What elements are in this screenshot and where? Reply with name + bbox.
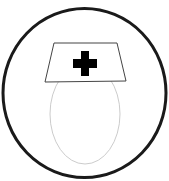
background — [0, 0, 169, 181]
nurse-icon — [0, 0, 169, 181]
nurse-icon-svg — [0, 0, 169, 181]
